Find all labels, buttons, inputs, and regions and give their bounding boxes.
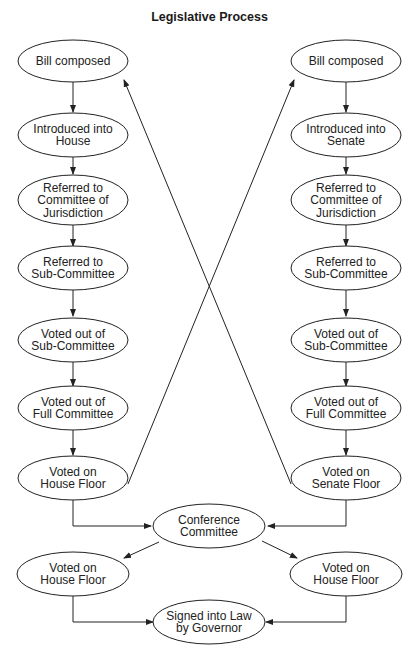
node-label: Full Committee bbox=[306, 407, 387, 421]
flowchart: Bill composedIntroduced intoHouseReferre… bbox=[0, 0, 419, 658]
node-label: Sub-Committee bbox=[31, 339, 115, 353]
node-label: Committee bbox=[180, 525, 238, 539]
node-label: House Floor bbox=[40, 477, 105, 491]
node-label: Sub-Committee bbox=[31, 267, 115, 281]
node-label: Jurisdiction bbox=[316, 206, 376, 220]
node-label: House bbox=[56, 134, 91, 148]
node-label: House Floor bbox=[313, 573, 378, 587]
node-label: Bill composed bbox=[36, 54, 111, 68]
node-label: by Governor bbox=[176, 621, 242, 635]
node-label: Sub-Committee bbox=[304, 267, 388, 281]
node-label: Senate bbox=[327, 134, 365, 148]
node-label: House Floor bbox=[40, 573, 105, 587]
node-label: Bill composed bbox=[309, 54, 384, 68]
node-label: Jurisdiction bbox=[43, 206, 103, 220]
node-label: Senate Floor bbox=[312, 477, 381, 491]
node-label: Sub-Committee bbox=[304, 339, 388, 353]
node-label: Full Committee bbox=[33, 407, 114, 421]
